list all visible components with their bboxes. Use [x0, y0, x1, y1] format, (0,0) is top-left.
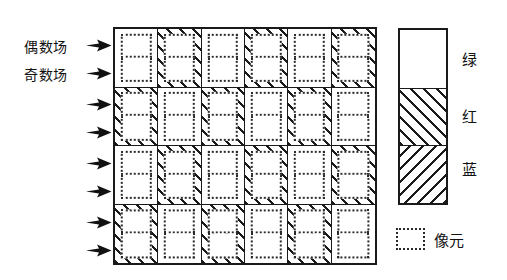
arrow-right-icon: [86, 157, 112, 170]
pixel-element-pair: [164, 151, 194, 199]
pixel-element: [208, 151, 238, 175]
pixel-element: [164, 175, 194, 199]
sensor-cell: [158, 88, 201, 147]
legend-swatch-red: [400, 88, 446, 146]
pixel-element: [208, 234, 238, 259]
pixel-element: [251, 151, 281, 175]
pixel-element-pair: [251, 151, 281, 199]
pixel-element: [294, 92, 324, 116]
odd-field-label: 奇数场: [24, 64, 68, 84]
sensor-cell: [332, 88, 375, 147]
pixel-element-pair: [251, 92, 281, 140]
sensor-cell: [115, 146, 158, 205]
sensor-cell: [245, 88, 288, 147]
legend-swatch-green: [400, 30, 446, 88]
sensor-cell: [245, 146, 288, 205]
sensor-cell: [332, 146, 375, 205]
pixel-element: [338, 175, 369, 199]
sensor-cell: [158, 146, 201, 205]
pixel-element: [208, 209, 238, 234]
pixel-element: [251, 58, 281, 82]
pixel-element-pair: [208, 209, 238, 258]
pixel-element: [338, 209, 369, 234]
pixel-element: [251, 116, 281, 140]
pixel-element: [251, 234, 281, 259]
arrow-right-icon: [86, 98, 112, 111]
pixel-element-pair: [294, 34, 324, 82]
pixel-element: [121, 92, 151, 116]
pixel-element-pair: [338, 92, 369, 140]
sensor-cell: [332, 205, 375, 264]
pixel-element: [294, 234, 324, 259]
pixel-element: [338, 151, 369, 175]
pixel-element-pair: [251, 34, 281, 82]
pixel-element-pair: [338, 151, 369, 199]
pixel-element: [121, 175, 151, 199]
pixel-element: [164, 234, 194, 259]
pixel-element: [251, 209, 281, 234]
pixel-element: [208, 58, 238, 82]
pixel-element: [294, 151, 324, 175]
legend-label-red: 红: [462, 105, 477, 126]
pixel-element: [164, 116, 194, 140]
pixel-element-pair: [294, 92, 324, 140]
pixel-element: [338, 234, 369, 259]
pixel-element-pair: [164, 209, 194, 258]
pixel-element: [208, 34, 238, 58]
sensor-cell: [288, 29, 331, 88]
pixel-element: [164, 151, 194, 175]
pixel-element-pair: [121, 92, 151, 140]
sensor-cell: [158, 29, 201, 88]
pixel-element: [251, 175, 281, 199]
pixel-element: [121, 34, 151, 58]
pixel-element: [164, 209, 194, 234]
pixel-element-pair: [208, 92, 238, 140]
pixel-element: [294, 58, 324, 82]
sensor-cell: [115, 29, 158, 88]
pixel-element: [294, 116, 324, 140]
sensor-grid: [113, 27, 377, 265]
legend-label-blue: 蓝: [462, 158, 477, 179]
pixel-element: [338, 116, 369, 140]
sensor-array-diagram: 偶数场 奇数场 绿 红 蓝 像元: [0, 0, 507, 280]
pixel-element: [164, 92, 194, 116]
pixel-element: [164, 58, 194, 82]
pixel-element-pair: [121, 151, 151, 199]
sensor-cell: [202, 88, 245, 147]
pixel-element-pair: [164, 34, 194, 82]
sensor-cell: [202, 205, 245, 264]
pixel-element: [294, 175, 324, 199]
arrow-right-icon: [86, 39, 112, 52]
pixel-element: [121, 209, 151, 234]
pixel-element-pair: [294, 151, 324, 199]
arrow-right-icon: [86, 126, 112, 139]
arrow-right-icon: [86, 216, 112, 229]
pixel-element: [208, 116, 238, 140]
pixel-element: [121, 234, 151, 259]
sensor-cell: [332, 29, 375, 88]
sensor-cell: [288, 146, 331, 205]
pixel-element-label: 像元: [434, 229, 464, 250]
sensor-cell: [245, 29, 288, 88]
pixel-element-key: 像元: [396, 228, 464, 250]
sensor-cell: [158, 205, 201, 264]
pixel-element-pair: [294, 209, 324, 258]
even-field-label: 偶数场: [24, 36, 68, 56]
pixel-element: [338, 92, 369, 116]
sensor-cell: [202, 29, 245, 88]
pixel-element: [338, 34, 369, 58]
pixel-element-pair: [338, 34, 369, 82]
pixel-element: [121, 151, 151, 175]
legend-label-green: 绿: [462, 48, 477, 69]
pixel-element: [251, 92, 281, 116]
pixel-element-pair: [208, 34, 238, 82]
pixel-element: [208, 92, 238, 116]
pixel-element-pair: [208, 151, 238, 199]
pixel-element: [251, 34, 281, 58]
pixel-element: [121, 116, 151, 140]
sensor-cell: [288, 205, 331, 264]
color-legend-bar: [398, 28, 448, 205]
sensor-cell: [115, 88, 158, 147]
pixel-element-pair: [251, 209, 281, 258]
pixel-element: [338, 58, 369, 82]
